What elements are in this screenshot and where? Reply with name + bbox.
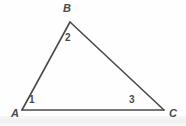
angle-label-2: 2 <box>65 33 71 43</box>
angle-label-3: 3 <box>129 95 135 105</box>
vertex-label-b: B <box>63 3 71 14</box>
vertex-label-c: C <box>169 108 177 119</box>
angle-label-1: 1 <box>29 95 35 105</box>
vertex-label-a: A <box>11 108 19 119</box>
triangle-drawing-canvas <box>0 0 186 126</box>
figure-background <box>0 0 186 126</box>
triangle-figure: A B C 1 2 3 <box>0 0 186 126</box>
